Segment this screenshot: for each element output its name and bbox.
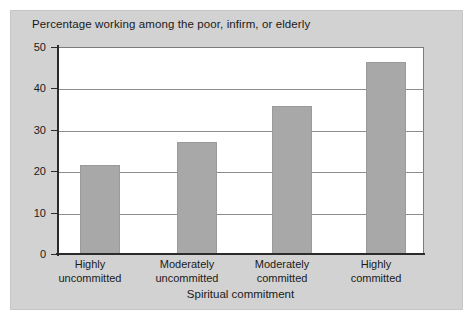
y-tick-mark-50 <box>51 47 57 48</box>
bar-moderately-uncommitted <box>177 142 217 254</box>
category-label-moderately-uncommitted: Moderately uncommitted <box>137 258 237 285</box>
bar-moderately-committed <box>272 106 312 254</box>
plot-area <box>57 47 424 254</box>
chart-figure: Percentage working among the poor, infir… <box>0 0 473 318</box>
bar-highly-committed <box>366 62 406 254</box>
y-tick-label-10: 10 <box>16 207 46 219</box>
y-tick-label-30: 30 <box>16 124 46 136</box>
y-tick-label-40: 40 <box>16 82 46 94</box>
y-tick-label-20: 20 <box>16 165 46 177</box>
y-tick-label-50: 50 <box>16 41 46 53</box>
category-label-line-1: Moderately <box>232 258 332 272</box>
category-label-line-2: uncommitted <box>137 272 237 286</box>
category-label-highly-committed: Highly committed <box>326 258 426 285</box>
x-axis-title: Spiritual commitment <box>57 288 424 300</box>
x-axis-spine <box>56 253 425 255</box>
category-label-line-1: Highly <box>326 258 426 272</box>
y-axis-spine <box>57 45 59 256</box>
category-label-line-2: committed <box>326 272 426 286</box>
y-tick-mark-40 <box>51 88 57 89</box>
category-label-line-1: Highly <box>40 258 140 272</box>
category-label-line-2: committed <box>232 272 332 286</box>
category-label-line-1: Moderately <box>137 258 237 272</box>
category-label-highly-uncommitted: Highly uncommitted <box>40 258 140 285</box>
category-label-line-2: uncommitted <box>40 272 140 286</box>
y-tick-mark-0 <box>51 254 57 255</box>
y-tick-mark-20 <box>51 171 57 172</box>
y-tick-mark-30 <box>51 130 57 131</box>
y-tick-mark-10 <box>51 213 57 214</box>
category-label-moderately-committed: Moderately committed <box>232 258 332 285</box>
chart-title: Percentage working among the poor, infir… <box>32 18 310 30</box>
bar-highly-uncommitted <box>80 165 120 254</box>
